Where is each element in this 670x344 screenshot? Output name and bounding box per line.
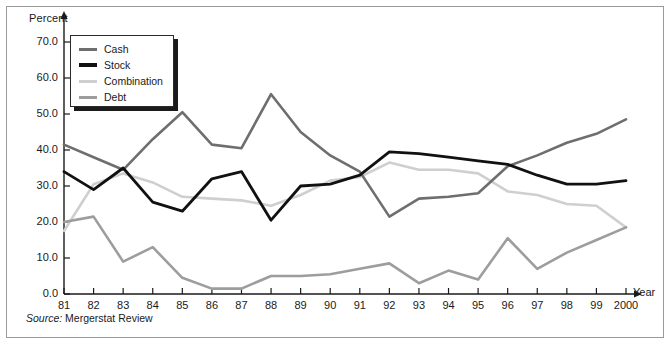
y-axis-arrow [60, 11, 67, 19]
legend-swatch-stock [79, 63, 97, 67]
legend-swatch-combination [79, 80, 97, 83]
legend-swatch-debt [79, 96, 97, 99]
legend-label: Debt [104, 92, 126, 103]
legend-item-stock: Stock [71, 57, 173, 73]
chart-figure: Percent Year 0.010.020.030.040.050.060.0… [0, 0, 670, 344]
source-note: Source: Mergerstat Review [26, 312, 153, 324]
legend-item-debt: Debt [71, 89, 173, 105]
series-line-debt [64, 217, 626, 289]
legend-label: Combination [104, 76, 163, 87]
source-value: Mergerstat Review [65, 312, 153, 324]
legend-label: Stock [104, 60, 130, 71]
source-label: Source: [26, 312, 62, 324]
legend-swatch-cash [79, 48, 97, 51]
legend-item-cash: Cash [71, 41, 173, 57]
legend-item-combination: Combination [71, 73, 173, 89]
legend-label: Cash [104, 44, 129, 55]
chart-legend: CashStockCombinationDebt [70, 35, 174, 107]
x-axis-arrow [634, 290, 642, 297]
